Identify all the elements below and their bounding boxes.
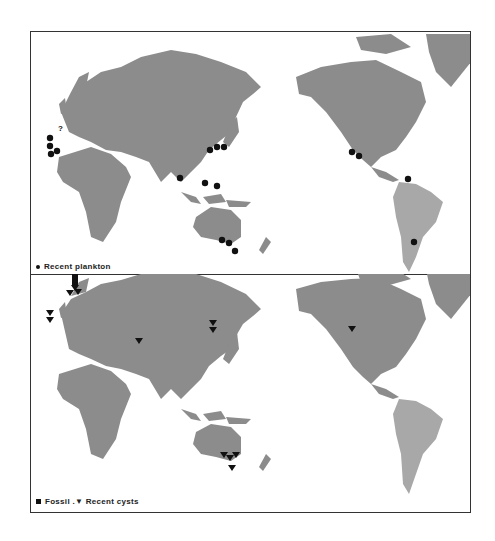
legend-recent-plankton: Recent plankton [36, 262, 111, 271]
recent-plankton-map: ? Recent plankton [31, 32, 470, 275]
map-figure: ? Recent plankton [30, 31, 471, 513]
uncertain-marker-annotation: ? [58, 124, 63, 133]
legend-fossil-recent-cysts: Fossil .▼ Recent cysts [36, 497, 139, 506]
square-marker-icon [36, 499, 41, 504]
circle-marker-icon [36, 265, 40, 269]
world-map-pacific-centered: ? [31, 32, 470, 274]
world-map-pacific-centered [31, 274, 470, 512]
triangle-marker-icon: ▼ [75, 497, 83, 506]
fossil-and-cysts-map: Fossil .▼ Recent cysts [31, 274, 470, 512]
